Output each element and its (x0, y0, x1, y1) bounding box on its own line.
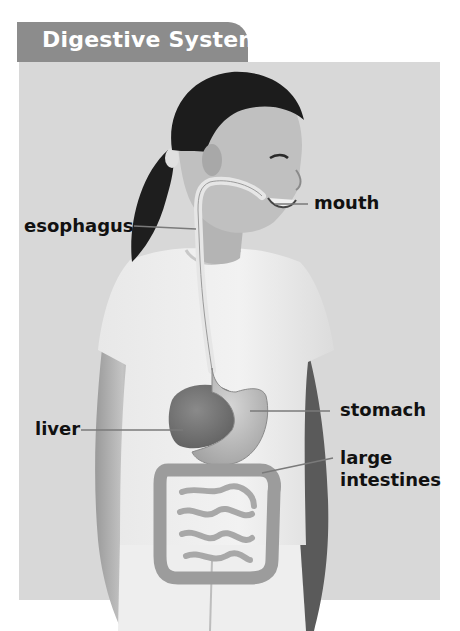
ponytail (131, 150, 173, 262)
child-figure-illustration (0, 0, 460, 631)
label-stomach: stomach (340, 400, 426, 420)
label-large-intestines-line2: intestines (340, 470, 441, 490)
label-mouth: mouth (314, 193, 379, 213)
label-esophagus: esophagus (24, 216, 134, 236)
label-large-intestines-line1: large (340, 448, 392, 468)
label-liver: liver (35, 419, 80, 439)
ear (202, 144, 222, 176)
